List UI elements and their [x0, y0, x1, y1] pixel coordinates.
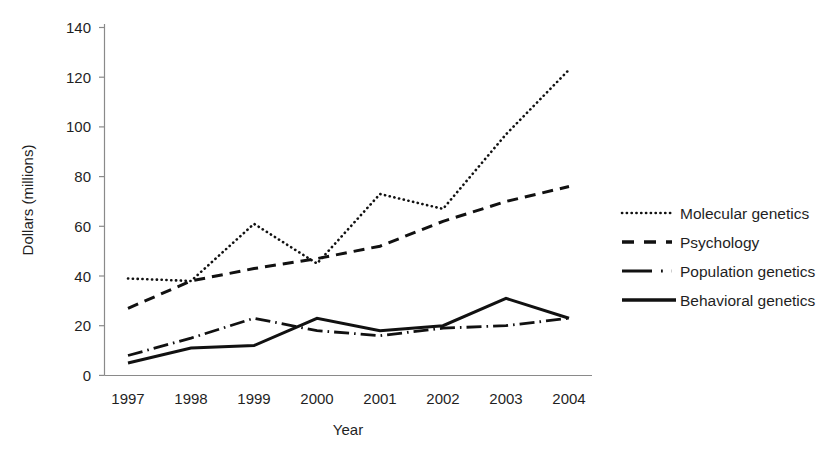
x-tick-label-1999: 1999 — [237, 390, 270, 407]
series-behavioral-genetics — [128, 298, 569, 363]
y-tick-label-140: 140 — [66, 19, 91, 36]
legend: Molecular genetics Psychology Population… — [622, 205, 816, 309]
y-axis-title: Dollars (millions) — [19, 145, 36, 256]
series-molecular-genetics — [128, 70, 569, 281]
y-tick-label-60: 60 — [74, 218, 91, 235]
y-tick-label-100: 100 — [66, 118, 91, 135]
x-tick-label-2000: 2000 — [300, 390, 333, 407]
legend-item-molecular-genetics[interactable]: Molecular genetics — [622, 205, 809, 222]
legend-label-behavioral-genetics: Behavioral genetics — [680, 292, 816, 309]
chart-canvas: 140 120 100 80 60 40 20 0 1997 1998 1999… — [0, 0, 834, 462]
x-tick-label-2001: 2001 — [363, 390, 396, 407]
y-tick-label-20: 20 — [74, 317, 91, 334]
legend-item-psychology[interactable]: Psychology — [622, 234, 760, 251]
x-tick-label-1998: 1998 — [174, 390, 207, 407]
x-tick-label-2002: 2002 — [426, 390, 459, 407]
legend-item-behavioral-genetics[interactable]: Behavioral genetics — [622, 292, 816, 309]
x-axis-title: Year — [333, 421, 363, 438]
legend-label-molecular-genetics: Molecular genetics — [680, 205, 809, 222]
x-tick-label-2004: 2004 — [552, 390, 585, 407]
y-tick-label-80: 80 — [74, 168, 91, 185]
series-group — [128, 70, 569, 363]
legend-item-population-genetics[interactable]: Population genetics — [622, 263, 816, 280]
legend-label-psychology: Psychology — [680, 234, 760, 251]
y-tick-label-120: 120 — [66, 69, 91, 86]
x-tick-label-1997: 1997 — [111, 390, 144, 407]
x-tick-label-2003: 2003 — [489, 390, 522, 407]
y-tick-label-40: 40 — [74, 268, 91, 285]
series-psychology — [128, 187, 569, 309]
line-chart: 140 120 100 80 60 40 20 0 1997 1998 1999… — [0, 0, 834, 462]
y-tick-label-0: 0 — [83, 367, 91, 384]
y-axis — [99, 24, 105, 376]
legend-label-population-genetics: Population genetics — [680, 263, 816, 280]
